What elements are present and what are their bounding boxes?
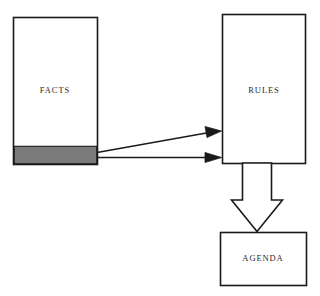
block-arrow-down-icon (232, 163, 283, 232)
connector-facts-to-rules-lower (97, 153, 222, 163)
connector-rules-to-agenda (232, 163, 283, 232)
node-facts[interactable]: FACTS (14, 18, 98, 165)
arrow-shaft (97, 132, 212, 153)
rules-label: RULES (248, 85, 279, 95)
diagram-canvas: FACTS RULES AGENDA (0, 0, 320, 296)
matched-facts-band (14, 146, 96, 163)
facts-label: FACTS (40, 85, 70, 95)
diagram-svg: FACTS RULES AGENDA (0, 0, 320, 296)
node-agenda[interactable]: AGENDA (221, 233, 307, 286)
agenda-label: AGENDA (242, 253, 283, 263)
node-rules[interactable]: RULES (223, 15, 306, 164)
connector-facts-to-rules-upper (97, 127, 222, 153)
arrowhead-icon (205, 153, 222, 163)
arrowhead-icon (205, 127, 222, 138)
